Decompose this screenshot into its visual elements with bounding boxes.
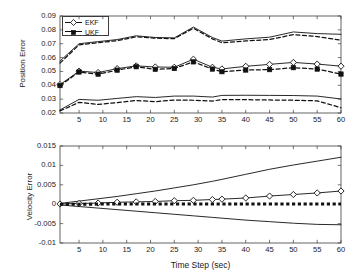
marker-top-3-2 (96, 72, 100, 76)
marker-top-2-13 (314, 61, 320, 67)
marker-top-3-5 (153, 67, 157, 71)
marker-top-3-14 (339, 72, 343, 76)
marker-top-3-0 (58, 83, 62, 87)
marker-top-3-10 (244, 68, 248, 72)
marker-top-3-12 (291, 65, 295, 69)
marker-top-2-14 (338, 63, 344, 69)
marker-top-3-4 (134, 65, 138, 69)
marker-bottom-1-8 (209, 196, 215, 202)
marker-top-2-11 (266, 61, 272, 67)
marker-bottom-1-13 (314, 190, 320, 196)
marker-top-3-6 (172, 66, 176, 70)
marker-top-3-1 (77, 70, 81, 74)
marker-top-3-7 (191, 60, 195, 64)
series-line-top-3 (60, 62, 341, 86)
marker-bottom-1-12 (290, 191, 296, 197)
series-line-top-4 (60, 95, 341, 110)
series-line-bottom-3 (60, 205, 341, 225)
series-line-top-1 (60, 28, 341, 63)
marker-bottom-1-9 (219, 196, 225, 202)
figure-container: Position Error Velocity Error Time Step … (0, 0, 358, 278)
series-line-top-5 (60, 100, 341, 111)
marker-bottom-1-14 (338, 188, 344, 194)
marker-bottom-1-11 (266, 193, 272, 199)
series-line-bottom-1 (60, 191, 341, 204)
series-line-top-2 (60, 59, 341, 84)
marker-top-3-11 (267, 67, 271, 71)
marker-top-3-3 (115, 68, 119, 72)
series-line-bottom-0 (60, 157, 341, 203)
chart-canvas (0, 0, 358, 278)
marker-top-3-9 (220, 70, 224, 74)
marker-bottom-1-10 (243, 195, 249, 201)
marker-top-3-8 (210, 67, 214, 71)
marker-top-2-12 (290, 59, 296, 65)
marker-top-3-13 (315, 67, 319, 71)
marker-bottom-1-7 (190, 197, 196, 203)
